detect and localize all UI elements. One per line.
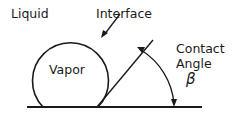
beta-symbol: β: [186, 72, 196, 86]
angle-label: Angle: [176, 57, 212, 71]
vapor-label: Vapor: [49, 63, 85, 77]
interface-label: Interface: [96, 7, 152, 21]
contact-label: Contact: [176, 42, 225, 56]
angle-arc: [141, 50, 174, 104]
liquid-label: Liquid: [11, 7, 49, 21]
angle-arrowhead-down-icon: [171, 99, 177, 107]
tangent-line: [97, 40, 153, 107]
contact-angle-diagram: Liquid Interface Vapor Contact Angle β: [0, 0, 238, 117]
